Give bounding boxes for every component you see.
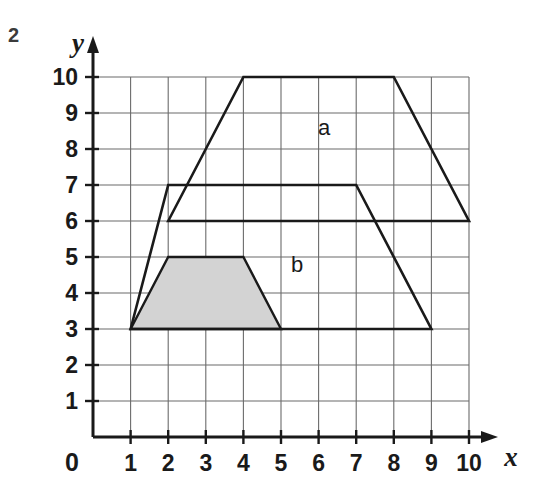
x-tick-label: 1 (124, 450, 137, 476)
coordinate-grid-figure: 2 (0, 0, 544, 494)
y-tick-label: 5 (65, 244, 78, 270)
x-tick-label: 7 (350, 450, 363, 476)
x-axis-label: x (503, 442, 518, 472)
y-tick-label: 10 (52, 64, 78, 90)
y-tick-label: 8 (65, 136, 78, 162)
x-axis (93, 431, 498, 443)
shaded-trapezoid-shape (131, 257, 281, 329)
y-tick-label: 4 (65, 280, 78, 306)
x-tick-label: 8 (387, 450, 400, 476)
x-tick-label: 4 (237, 450, 250, 476)
x-tick-label: 3 (199, 450, 212, 476)
x-tick-label: 5 (275, 450, 288, 476)
y-axis-label: y (69, 28, 85, 58)
y-tick-label: 1 (65, 388, 78, 414)
y-axis (87, 36, 99, 437)
x-tick-label: 10 (456, 450, 482, 476)
y-tick-label: 3 (65, 316, 78, 342)
origin-label: 0 (65, 448, 79, 476)
x-tick-label: 2 (162, 450, 175, 476)
y-tick-label: 7 (65, 172, 78, 198)
coordinate-plot: 1 2 3 4 5 6 7 8 9 10 1 2 3 4 5 6 7 8 9 1… (0, 0, 544, 494)
shape-a-label: a (318, 115, 331, 140)
shape-b-label: b (291, 252, 303, 277)
y-axis-tick-labels: 1 2 3 4 5 6 7 8 9 10 (52, 64, 78, 414)
y-tick-label: 2 (65, 352, 78, 378)
y-tick-label: 9 (65, 100, 78, 126)
x-tick-label: 6 (312, 450, 325, 476)
y-tick-label: 6 (65, 208, 78, 234)
x-tick-label: 9 (425, 450, 438, 476)
x-axis-tick-labels: 1 2 3 4 5 6 7 8 9 10 (124, 450, 482, 476)
